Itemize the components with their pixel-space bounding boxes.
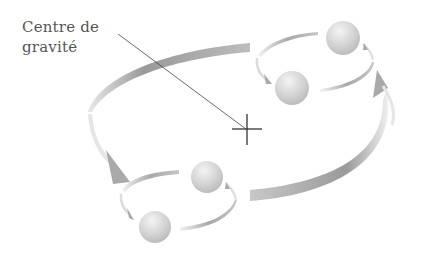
sphere-lower-right bbox=[191, 161, 223, 193]
sphere-upper-right bbox=[326, 21, 360, 55]
sphere-lower-left bbox=[139, 211, 171, 243]
lower-pair-orbit bbox=[121, 161, 237, 243]
upper-pair-orbit bbox=[257, 21, 374, 105]
center-of-gravity-cross bbox=[232, 114, 262, 145]
large-orbit-arrow bbox=[88, 43, 394, 201]
sphere-upper-left bbox=[275, 71, 309, 105]
orbit-diagram bbox=[0, 0, 432, 255]
